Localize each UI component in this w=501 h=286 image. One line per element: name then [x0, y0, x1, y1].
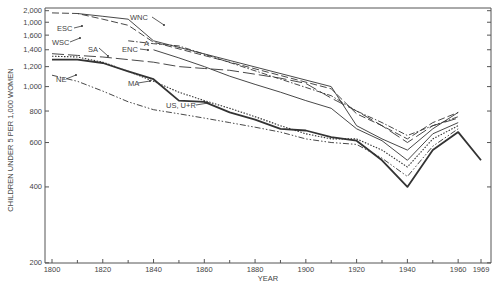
x-tick-label: 1920 — [348, 265, 365, 274]
series-label: WSC — [52, 38, 70, 47]
series-line-ne — [52, 75, 458, 176]
y-tick-label: 600 — [29, 138, 42, 147]
series-label: ESC — [57, 24, 73, 33]
series-label: A — [144, 39, 149, 48]
fertility-line-chart: 2,0001,0001,6001,4001,2001,0008006004002… — [0, 0, 501, 286]
series-line-wsc — [128, 41, 458, 136]
arrow-head-icon — [81, 25, 83, 27]
y-tick-label: 1,000 — [23, 82, 42, 91]
label-pointer-arrow-icon — [70, 38, 80, 42]
x-tick-label: 1840 — [145, 265, 162, 274]
series-label: ENC — [122, 45, 138, 54]
y-tick-label: 800 — [29, 107, 42, 116]
series-label: MA — [128, 79, 139, 88]
plot-frame — [45, 8, 491, 263]
x-tick-label: 1969 — [473, 265, 490, 274]
y-tick-label: 1,200 — [23, 62, 42, 71]
arrow-head-icon — [107, 55, 109, 57]
x-tick-label: 1960 — [450, 265, 467, 274]
label-pointer-arrow-icon — [99, 48, 108, 56]
x-tick-label: 1940 — [399, 265, 416, 274]
arrow-head-icon — [79, 37, 81, 39]
x-tick-label: 1900 — [298, 265, 315, 274]
x-tick-label: 1820 — [94, 265, 111, 274]
x-tick-label: 1880 — [247, 265, 264, 274]
series-label: SA — [88, 45, 98, 54]
label-pointer-arrow-icon — [196, 103, 208, 105]
y-tick-label: 2,000 — [23, 6, 42, 15]
label-pointer-arrow-icon — [66, 75, 76, 79]
arrow-head-icon — [207, 102, 209, 104]
label-pointer-arrow-icon — [74, 26, 82, 28]
y-axis-label: CHILDREN UNDER 5 PER 1,000 WOMEN — [6, 68, 15, 211]
label-pointer-arrow-icon — [138, 81, 150, 83]
series-line-enc — [154, 50, 459, 161]
x-tick-label: 1860 — [196, 265, 213, 274]
series-line-us-u-r — [52, 60, 481, 187]
series-label: US, U+R — [166, 101, 196, 110]
arrow-head-icon — [75, 74, 77, 76]
series-line-ma — [52, 56, 458, 167]
y-tick-label: 400 — [29, 182, 42, 191]
chart-svg: 2,0001,0001,6001,4001,2001,0008006004002… — [0, 0, 501, 286]
y-tick-label: 1,400 — [23, 45, 42, 54]
series-labels: WNCESCWSCSAENCAMANEUS, U+R — [52, 13, 209, 110]
x-axis-label: YEAR — [258, 274, 279, 283]
arrow-head-icon — [149, 80, 151, 82]
y-tick-label: 1,600 — [23, 31, 42, 40]
y-tick-label: 1,000 — [23, 18, 42, 27]
chart-series — [52, 13, 481, 187]
x-tick-label: 1800 — [44, 265, 61, 274]
series-label: NE — [56, 75, 66, 84]
arrow-head-icon — [163, 24, 165, 26]
label-pointer-arrow-icon — [152, 17, 164, 25]
label-pointer-arrow-icon — [140, 49, 148, 50]
y-tick-label: 200 — [29, 258, 42, 267]
series-label: WNC — [130, 13, 148, 22]
arrow-head-icon — [147, 49, 149, 51]
